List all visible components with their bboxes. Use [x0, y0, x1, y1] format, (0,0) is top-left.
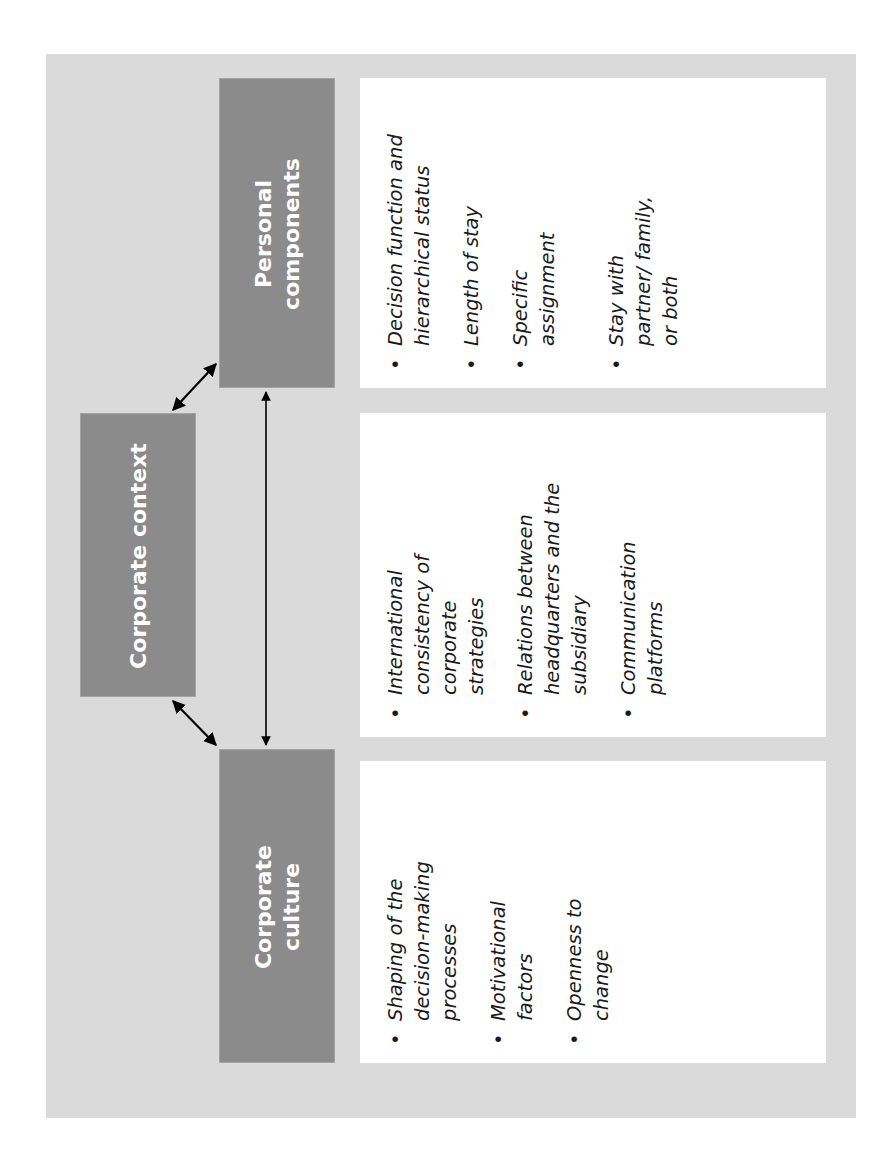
arrow-context-culture [173, 701, 216, 745]
arrow-context-personal [173, 364, 216, 410]
connector-arrows [0, 0, 886, 1156]
